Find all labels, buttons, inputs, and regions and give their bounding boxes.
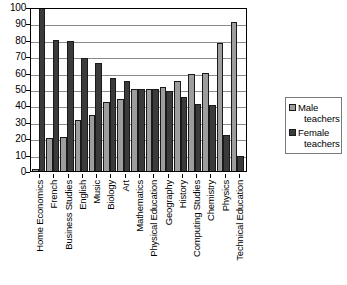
x-tick-label: Home Economics xyxy=(35,180,45,252)
bar xyxy=(103,102,110,171)
y-tick-label: 100 xyxy=(0,3,26,13)
bar xyxy=(174,81,181,171)
x-label-slot: Chemistry xyxy=(203,174,217,285)
x-tick-label: Physics xyxy=(221,180,231,211)
x-tick-label: Geography xyxy=(164,180,174,225)
bar xyxy=(46,138,53,171)
x-label-slot: French xyxy=(46,174,60,285)
y-tick-label: 90 xyxy=(0,19,26,29)
x-tick-label: History xyxy=(178,180,188,208)
x-tick-mark xyxy=(239,174,240,178)
bar xyxy=(152,89,159,171)
bar xyxy=(75,120,82,171)
bar xyxy=(217,43,224,171)
bar xyxy=(181,97,188,171)
x-tick-mark xyxy=(139,174,140,178)
bar xyxy=(231,22,238,171)
bar-group xyxy=(60,9,74,171)
bar xyxy=(81,58,88,171)
bar xyxy=(131,89,138,171)
bar-group xyxy=(188,9,202,171)
bar xyxy=(95,63,102,171)
y-tick-label: 40 xyxy=(0,101,26,111)
bar xyxy=(124,81,131,171)
plot-area xyxy=(31,8,247,172)
bar xyxy=(166,91,173,171)
bar-groups xyxy=(31,9,246,171)
y-axis: 1009080706050403020100 xyxy=(0,0,26,175)
legend-item[interactable]: Femaleteachers xyxy=(289,127,337,149)
x-tick-mark xyxy=(53,174,54,178)
y-tick-label: 50 xyxy=(0,85,26,95)
x-tick-label: Computing Studies xyxy=(192,180,202,257)
bar xyxy=(202,73,209,171)
bar-group xyxy=(146,9,160,171)
x-tick-mark xyxy=(39,174,40,178)
legend-label: Femaleteachers xyxy=(298,127,340,149)
legend-swatch-icon xyxy=(289,129,296,136)
legend-swatch-icon xyxy=(289,104,296,111)
x-tick-label: Music xyxy=(92,180,102,204)
bar-chart: 1009080706050403020100 Home EconomicsFre… xyxy=(0,0,347,285)
y-tick-label: 30 xyxy=(0,118,26,128)
x-label-slot: Physical Education xyxy=(146,174,160,285)
x-label-slot: Biology xyxy=(103,174,117,285)
x-label-slot: Home Economics xyxy=(32,174,46,285)
bar-group xyxy=(103,9,117,171)
bar-group xyxy=(231,9,245,171)
x-tick-label: Physical Education xyxy=(149,180,159,257)
x-label-slot: Geography xyxy=(160,174,174,285)
x-label-slot: Music xyxy=(89,174,103,285)
legend-label: Maleteachers xyxy=(298,102,340,124)
x-tick-label: English xyxy=(78,180,88,210)
bar xyxy=(60,137,67,171)
bar xyxy=(32,169,39,171)
bar xyxy=(67,41,74,171)
bar-group xyxy=(202,9,216,171)
y-tick-label: 20 xyxy=(0,134,26,144)
x-tick-mark xyxy=(125,174,126,178)
y-tick-mark xyxy=(26,172,30,173)
x-tick-mark xyxy=(68,174,69,178)
bar-group xyxy=(46,9,60,171)
y-tick-label: 60 xyxy=(0,69,26,79)
bar xyxy=(117,99,124,171)
bar-group xyxy=(32,9,46,171)
bar xyxy=(223,135,230,171)
bar xyxy=(209,105,216,171)
bar-group xyxy=(217,9,231,171)
x-tick-label: Art xyxy=(121,180,131,192)
x-label-slot: English xyxy=(75,174,89,285)
bar xyxy=(89,115,96,171)
x-tick-label: Business Studies xyxy=(64,180,74,250)
x-label-slot: Mathematics xyxy=(132,174,146,285)
x-tick-mark xyxy=(196,174,197,178)
bar-group xyxy=(75,9,89,171)
x-label-slot: Business Studies xyxy=(61,174,75,285)
y-tick-label: 10 xyxy=(0,151,26,161)
bar xyxy=(39,8,46,171)
x-tick-mark xyxy=(82,174,83,178)
y-tick-label: 0 xyxy=(0,167,26,177)
chart-legend: MaleteachersFemaleteachers xyxy=(285,97,342,154)
x-tick-label: Chemistry xyxy=(206,180,216,221)
x-tick-mark xyxy=(168,174,169,178)
x-tick-label: Technical Education xyxy=(235,180,245,261)
y-tick-label: 70 xyxy=(0,52,26,62)
legend-item[interactable]: Maleteachers xyxy=(289,102,337,124)
bar-group xyxy=(131,9,145,171)
bar-group xyxy=(174,9,188,171)
x-label-slot: History xyxy=(175,174,189,285)
x-label-slot: Art xyxy=(118,174,132,285)
x-label-slot: Computing Studies xyxy=(189,174,203,285)
bar xyxy=(237,156,244,171)
x-tick-mark xyxy=(110,174,111,178)
bar xyxy=(146,89,153,171)
bar xyxy=(110,78,117,171)
x-tick-mark xyxy=(210,174,211,178)
x-tick-label: Mathematics xyxy=(135,180,145,232)
bar xyxy=(138,89,145,171)
x-tick-label: French xyxy=(49,180,59,208)
x-axis-labels: Home EconomicsFrenchBusiness StudiesEngl… xyxy=(31,174,247,285)
bar-group xyxy=(160,9,174,171)
